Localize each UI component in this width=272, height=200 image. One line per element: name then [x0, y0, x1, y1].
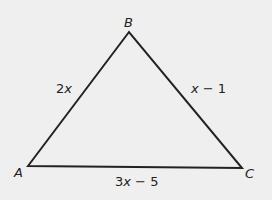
vertex-label-b: B — [124, 15, 133, 30]
triangle-abc — [28, 32, 242, 168]
side-label-bc: x − 1 — [190, 81, 226, 96]
side-label-ac: 3x − 5 — [115, 174, 158, 189]
vertex-label-a: A — [13, 165, 23, 180]
triangle-diagram: B A C 2x x − 1 3x − 5 — [0, 0, 272, 200]
vertex-label-c: C — [245, 166, 255, 181]
side-label-ab: 2x — [56, 81, 72, 96]
